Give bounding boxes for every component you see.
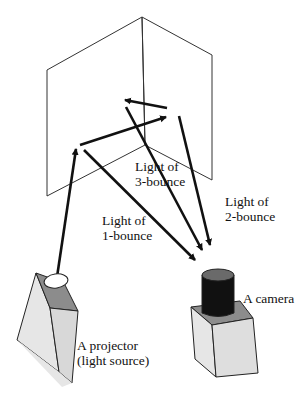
label-camera-text: A camera	[243, 291, 294, 306]
ray-wall-to-right-wall	[80, 117, 166, 145]
left-wall-plane	[47, 17, 145, 196]
label-1-bounce-line2: 1-bounce	[102, 228, 152, 243]
camera-lens-top-icon	[202, 269, 234, 281]
light-rays	[57, 100, 210, 277]
ray-right-wall-to-left-wall	[125, 100, 167, 108]
label-camera: A camera	[243, 291, 294, 306]
label-3-bounce: Light of 3-bounce	[135, 159, 185, 189]
label-projector-line2: (light source)	[77, 353, 149, 368]
label-projector: A projector (light source)	[77, 338, 149, 368]
projector	[17, 272, 78, 387]
label-3-bounce-line2: 3-bounce	[135, 174, 185, 189]
label-1-bounce: Light of 1-bounce	[102, 213, 152, 243]
ray-projector-to-wall	[57, 149, 76, 277]
label-2-bounce-line1: Light of	[225, 194, 275, 209]
label-2-bounce: Light of 2-bounce	[225, 194, 275, 224]
camera-front-face	[212, 318, 258, 377]
label-projector-line1: A projector	[77, 338, 149, 353]
camera	[191, 269, 258, 377]
label-2-bounce-line2: 2-bounce	[225, 209, 275, 224]
label-1-bounce-line1: Light of	[102, 213, 152, 228]
label-3-bounce-line1: Light of	[135, 159, 185, 174]
